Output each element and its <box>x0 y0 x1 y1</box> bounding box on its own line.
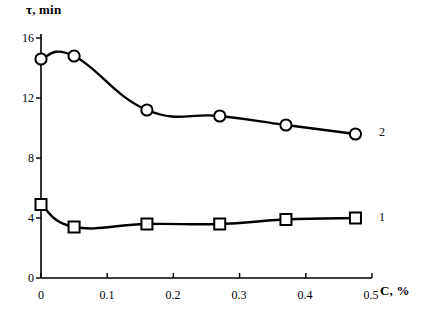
series-2-line <box>41 52 355 134</box>
y-tick-label-4: 4 <box>8 211 34 226</box>
data-point-circle <box>280 119 291 130</box>
x-tick-label-0.4: 0.4 <box>285 288 325 303</box>
series-1-curve <box>36 199 361 233</box>
data-point-circle <box>350 128 361 139</box>
x-tick-label-0: 0 <box>21 288 61 303</box>
y-tick-label-0: 0 <box>8 271 34 286</box>
series-2-curve <box>35 50 361 139</box>
data-point-square <box>141 219 152 230</box>
data-point-square <box>36 199 47 210</box>
data-point-circle <box>69 50 80 61</box>
data-point-square <box>280 214 291 225</box>
x-tick-label-0.3: 0.3 <box>219 288 259 303</box>
series-label-1: 1 <box>379 210 385 225</box>
plot-area <box>0 0 432 317</box>
x-tick-label-0.5: 0.5 <box>351 288 391 303</box>
data-point-circle <box>141 104 152 115</box>
data-point-square <box>350 213 361 224</box>
data-point-square <box>214 219 225 230</box>
clipped-caption <box>14 308 314 316</box>
x-tick-label-0.2: 0.2 <box>153 288 193 303</box>
series-1-line <box>41 205 355 229</box>
y-tick-label-8: 8 <box>8 151 34 166</box>
data-point-circle <box>35 53 46 64</box>
series-label-2: 2 <box>379 125 385 140</box>
data-point-square <box>69 222 80 233</box>
x-tick-label-0.1: 0.1 <box>87 288 127 303</box>
data-point-circle <box>214 110 225 121</box>
y-tick-label-16: 16 <box>8 31 34 46</box>
chart-figure: τ, min C, % 16 12 8 4 0 0 0.1 0.2 0.3 0.… <box>0 0 432 317</box>
axes-group <box>36 34 372 278</box>
y-axis-label: τ, min <box>26 2 61 18</box>
y-tick-label-12: 12 <box>8 91 34 106</box>
